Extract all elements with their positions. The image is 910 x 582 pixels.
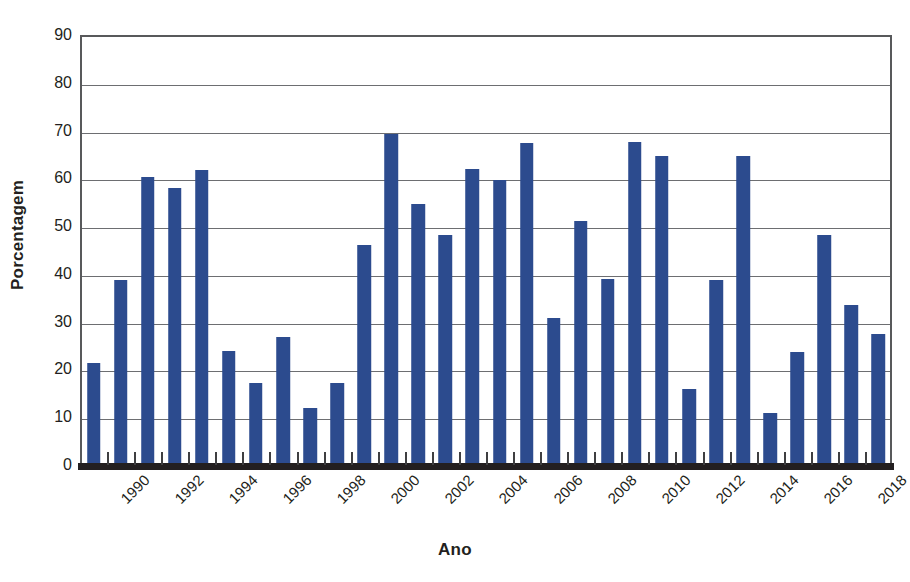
- x-axis-tick-mark: [513, 452, 515, 465]
- bar[interactable]: [114, 280, 128, 465]
- bars-layer: [80, 35, 892, 465]
- x-axis-tick-label: 2014: [767, 472, 801, 506]
- x-axis-tick-mark: [188, 452, 190, 465]
- x-axis-tick-mark: [675, 452, 677, 465]
- bar-slot: [459, 35, 486, 465]
- bar[interactable]: [276, 337, 290, 465]
- bar-slot: [215, 35, 242, 465]
- y-axis-tick-labels: 0102030405060708090: [36, 0, 78, 470]
- y-axis-tick-label: 40: [54, 266, 72, 282]
- bar[interactable]: [818, 235, 832, 465]
- bar[interactable]: [466, 169, 480, 465]
- x-axis-tick-label: 1994: [226, 472, 260, 506]
- y-axis-tick-label: 20: [54, 361, 72, 377]
- bar-slot: [540, 35, 567, 465]
- bar[interactable]: [87, 363, 101, 465]
- x-axis-tick-mark: [621, 452, 623, 465]
- x-axis-tick-mark: [161, 452, 163, 465]
- bar[interactable]: [872, 334, 886, 465]
- bar[interactable]: [790, 352, 804, 465]
- bar-slot: [107, 35, 134, 465]
- x-axis-tick-label: 2016: [821, 472, 855, 506]
- bar[interactable]: [222, 351, 236, 465]
- bar-slot: [757, 35, 784, 465]
- y-axis-tick-label: 80: [54, 75, 72, 91]
- bar-slot: [838, 35, 865, 465]
- x-axis-tick-label: 2010: [659, 472, 693, 506]
- bar-slot: [432, 35, 459, 465]
- bar-slot: [675, 35, 702, 465]
- bar-slot: [351, 35, 378, 465]
- bar-slot: [324, 35, 351, 465]
- bar-chart: Porcentagem 0102030405060708090 19901992…: [0, 0, 910, 582]
- x-axis-tick-mark: [107, 452, 109, 465]
- bar-slot: [648, 35, 675, 465]
- x-axis-tick-label: 2018: [875, 472, 909, 506]
- bar[interactable]: [384, 134, 398, 465]
- bar[interactable]: [845, 305, 859, 465]
- x-axis-tick-mark: [567, 452, 569, 465]
- bar[interactable]: [628, 142, 642, 465]
- x-axis-tick-mark: [324, 452, 326, 465]
- bar-slot: [242, 35, 269, 465]
- x-axis-tick-label: 2002: [442, 472, 476, 506]
- y-axis-title: Porcentagem: [0, 0, 36, 470]
- x-axis-tick-mark: [757, 452, 759, 465]
- bar[interactable]: [601, 279, 615, 465]
- bar-slot: [567, 35, 594, 465]
- bar-slot: [297, 35, 324, 465]
- bar-slot: [378, 35, 405, 465]
- x-axis-tick-mark: [703, 452, 705, 465]
- x-axis-tick-mark: [351, 452, 353, 465]
- bar-slot: [621, 35, 648, 465]
- y-axis-title-label: Porcentagem: [8, 180, 28, 290]
- x-axis-tick-label: 2004: [496, 472, 530, 506]
- x-axis-tick-label: 1992: [171, 472, 205, 506]
- x-axis-tick-label: 1990: [117, 472, 151, 506]
- bar[interactable]: [439, 235, 453, 465]
- bar-slot: [513, 35, 540, 465]
- bar-slot: [703, 35, 730, 465]
- bar-slot: [134, 35, 161, 465]
- bar-slot: [161, 35, 188, 465]
- bar[interactable]: [709, 280, 723, 465]
- bar[interactable]: [412, 204, 426, 465]
- bar[interactable]: [357, 245, 371, 465]
- x-axis-tick-label: 2008: [604, 472, 638, 506]
- bar[interactable]: [520, 143, 534, 465]
- x-axis-tick-mark: [242, 452, 244, 465]
- bar[interactable]: [547, 318, 561, 465]
- bar[interactable]: [141, 177, 155, 465]
- bar[interactable]: [493, 180, 507, 465]
- x-axis-tick-mark: [269, 452, 271, 465]
- x-axis-tick-mark: [459, 452, 461, 465]
- x-axis-tick-marks: [80, 452, 892, 465]
- x-axis-tick-mark: [838, 452, 840, 465]
- x-axis-tick-mark: [215, 452, 217, 465]
- bar-slot: [784, 35, 811, 465]
- y-axis-tick-label: 50: [54, 218, 72, 234]
- bar[interactable]: [655, 156, 669, 465]
- x-axis-tick-mark: [865, 452, 867, 465]
- y-axis-tick-label: 90: [54, 27, 72, 43]
- bar[interactable]: [195, 170, 209, 465]
- x-axis-tick-mark: [811, 452, 813, 465]
- bar[interactable]: [574, 221, 588, 465]
- x-axis-tick-label: 2000: [388, 472, 422, 506]
- x-axis-tick-mark: [134, 452, 136, 465]
- x-axis-tick-label: 1998: [334, 472, 368, 506]
- x-axis-tick-mark: [378, 452, 380, 465]
- bar-slot: [811, 35, 838, 465]
- x-axis-tick-mark: [432, 452, 434, 465]
- x-axis-tick-label: 1996: [280, 472, 314, 506]
- bar-slot: [80, 35, 107, 465]
- bar[interactable]: [168, 188, 182, 465]
- bar-slot: [269, 35, 296, 465]
- x-axis-tick-label: 2006: [550, 472, 584, 506]
- bar[interactable]: [736, 156, 750, 465]
- x-axis-tick-mark: [405, 452, 407, 465]
- y-axis-tick-label: 60: [54, 170, 72, 186]
- y-axis-tick-label: 70: [54, 123, 72, 139]
- bar-slot: [188, 35, 215, 465]
- bar-slot: [865, 35, 892, 465]
